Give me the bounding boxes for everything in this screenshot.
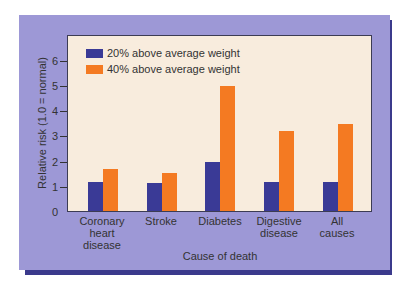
legend-item-40pct: 40% above average weight <box>86 63 240 75</box>
legend-item-20pct: 20% above average weight <box>86 47 240 59</box>
plot-area <box>67 35 372 212</box>
legend-label: 40% above average weight <box>107 63 240 75</box>
y-tick <box>60 162 67 163</box>
bar-40pct <box>220 86 235 211</box>
bar-20pct <box>88 182 103 211</box>
cat-line: heart <box>67 227 137 239</box>
legend-swatch-orange <box>86 65 103 74</box>
cat-line: disease <box>67 239 137 251</box>
bar-40pct <box>103 169 118 211</box>
y-tick <box>60 61 67 62</box>
x-category-all: All causes <box>302 215 372 239</box>
bar-20pct <box>264 182 279 211</box>
bar-20pct <box>205 162 220 211</box>
y-tick <box>60 111 67 112</box>
bar-40pct <box>279 131 294 211</box>
cat-line: causes <box>302 227 372 239</box>
y-tick <box>60 187 67 188</box>
bar-20pct <box>147 183 162 211</box>
x-axis-label: Cause of death <box>160 250 280 262</box>
y-axis-label: Relative risk (1.0 = normal) <box>36 43 48 203</box>
legend-swatch-blue <box>86 49 103 58</box>
cat-line: All <box>302 215 372 227</box>
y-tick <box>60 86 67 87</box>
y-tick <box>60 136 67 137</box>
bar-20pct <box>323 182 338 211</box>
bar-40pct <box>162 173 177 211</box>
y-tick-label: 0 <box>44 206 58 218</box>
bar-40pct <box>338 124 353 211</box>
legend-label: 20% above average weight <box>107 47 240 59</box>
